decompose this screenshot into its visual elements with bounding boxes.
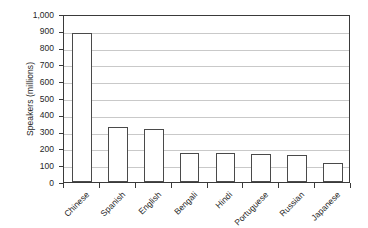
x-axis-tick (207, 183, 208, 188)
gridline (64, 134, 349, 135)
gridline (64, 100, 349, 101)
y-axis-tick-label: 200 (40, 145, 54, 154)
y-axis-tick-label: 700 (40, 61, 54, 70)
bar (287, 155, 307, 182)
gridline (64, 33, 349, 34)
y-axis-tick-label: 100 (40, 162, 54, 171)
bar (251, 154, 271, 182)
bar (323, 163, 343, 182)
x-axis-tick (278, 183, 279, 188)
bar (180, 153, 200, 182)
bar-chart: Speakers (millions) 01002003004005006007… (0, 0, 368, 228)
gridline (64, 117, 349, 118)
y-axis-tick-label: 400 (40, 111, 54, 120)
gridline (64, 66, 349, 67)
y-axis-tick-label: 500 (40, 95, 54, 104)
gridline (64, 150, 349, 151)
x-axis-tick (350, 183, 351, 188)
x-axis-tick (171, 183, 172, 188)
x-axis-tick (99, 183, 100, 188)
x-axis-tick (63, 183, 64, 188)
y-axis-tick-labels: 01002003004005006007008009001,000 (0, 0, 63, 228)
x-axis-tick (314, 183, 315, 188)
y-axis-tick-label: 600 (40, 78, 54, 87)
gridline (64, 83, 349, 84)
y-axis-tick-label: 1,000 (33, 11, 54, 20)
bar (108, 127, 128, 182)
bar (72, 33, 92, 182)
bar (144, 129, 164, 182)
y-axis-tick-label: 800 (40, 44, 54, 53)
plot-area (63, 15, 350, 183)
x-axis-tick (135, 183, 136, 188)
y-axis-tick-label: 0 (49, 179, 54, 188)
x-axis-tick (242, 183, 243, 188)
y-axis-tick-label: 300 (40, 128, 54, 137)
gridline (64, 50, 349, 51)
y-axis-tick-label: 900 (40, 27, 54, 36)
bar (216, 153, 236, 182)
